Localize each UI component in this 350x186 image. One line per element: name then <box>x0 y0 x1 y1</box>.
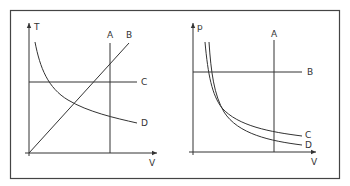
right-graph-labels: p V A B C D <box>197 22 318 167</box>
left-graph-t-v <box>25 23 157 156</box>
left-y-axis-label: T <box>33 22 40 32</box>
left-label-d: D <box>141 118 148 128</box>
right-curve-d <box>209 42 302 145</box>
right-x-axis-label: V <box>311 157 318 167</box>
right-label-c: C <box>305 130 311 140</box>
right-label-a: A <box>271 29 278 39</box>
thermodynamic-process-diagrams: T V A B C D p V A B C D <box>0 0 350 186</box>
left-label-a: A <box>107 30 114 40</box>
left-x-axis-label: V <box>149 158 156 168</box>
right-label-d: D <box>305 140 312 150</box>
right-graph-p-v <box>189 23 316 155</box>
left-graph-labels: T V A B C D <box>33 22 156 168</box>
left-curve-b <box>29 43 129 153</box>
right-label-b: B <box>307 67 313 77</box>
left-label-c: C <box>141 77 147 87</box>
right-y-axis-label: p <box>197 22 203 32</box>
right-curve-c <box>205 42 302 136</box>
left-label-b: B <box>126 30 132 40</box>
